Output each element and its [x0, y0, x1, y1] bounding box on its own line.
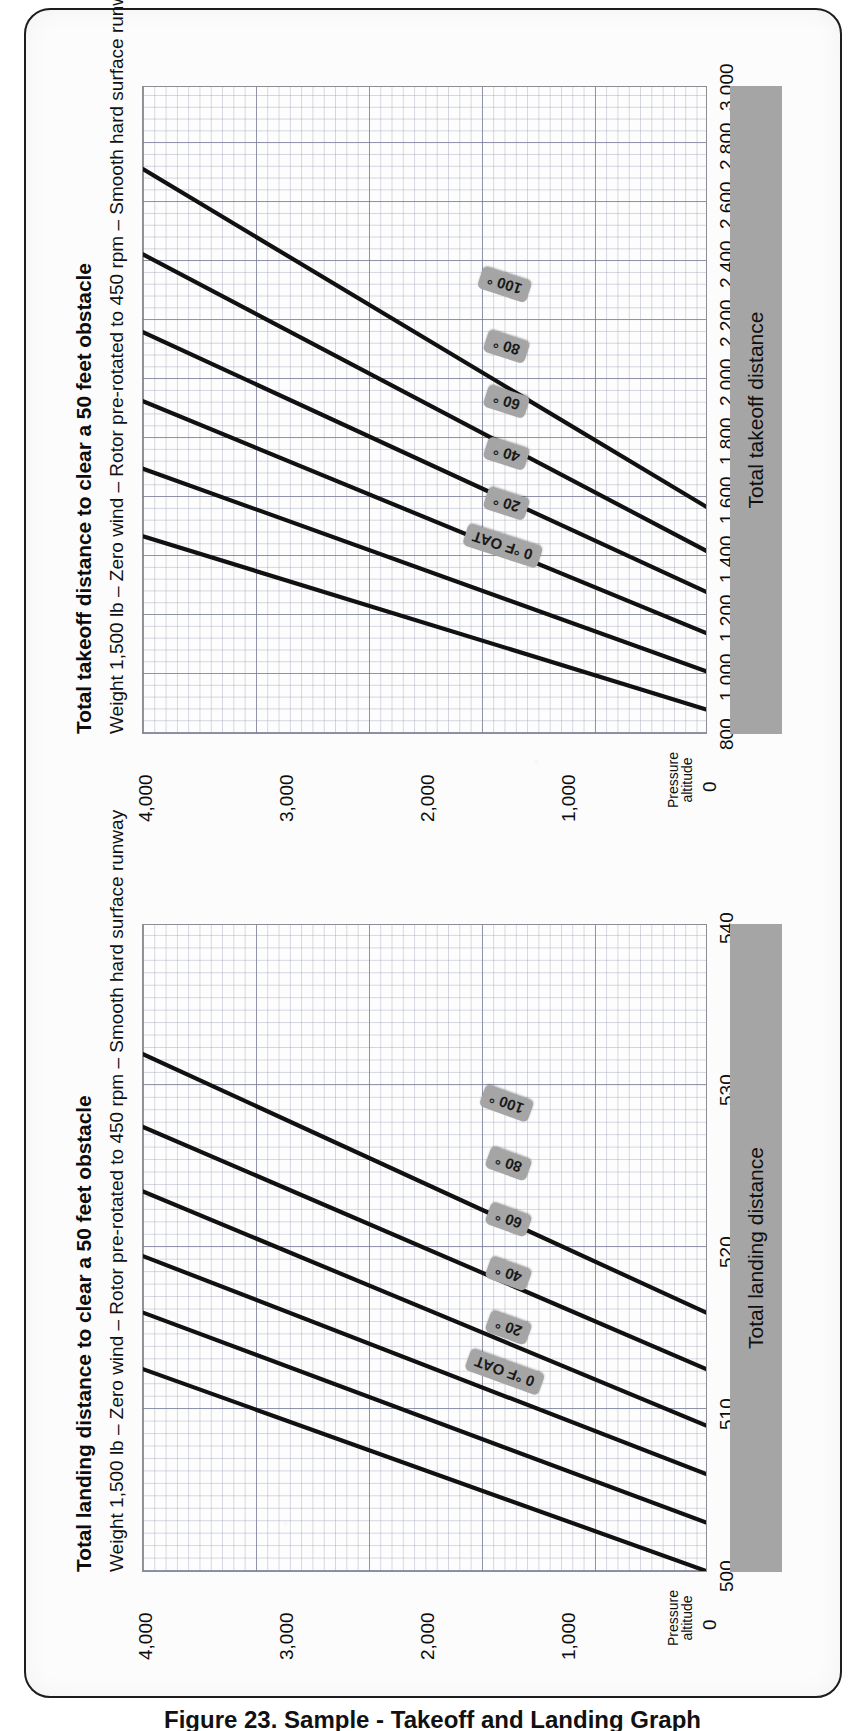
landing-curves	[143, 925, 706, 1571]
landing-y-axis-title: Pressure altitude	[666, 1590, 695, 1646]
takeoff-chart-subtitle: Weight 1,500 lb – Zero wind – Rotor pre-…	[106, 0, 128, 734]
takeoff-plot-area: 0 °F OAT 20 ° 40 ° 60 ° 80 ° 100 °	[142, 86, 707, 734]
landing-ytick-0: 0	[699, 1619, 721, 1630]
takeoff-axis-bar: Total takeoff distance	[730, 86, 782, 734]
takeoff-ytick-0: 0	[699, 781, 721, 792]
landing-axis-bar-label: Total landing distance	[744, 1147, 768, 1349]
takeoff-y-axis-title-line2: altitude	[680, 752, 694, 808]
takeoff-y-axis-title-line1: Pressure	[666, 752, 680, 808]
takeoff-y-axis-title: Pressure altitude	[666, 752, 695, 808]
landing-ytick-4: 4,000	[135, 1612, 157, 1660]
landing-panel: Total landing distance to clear a 50 fee…	[58, 880, 818, 1700]
takeoff-ytick-4: 4,000	[135, 774, 157, 822]
landing-chart-title: Total landing distance to clear a 50 fee…	[72, 1095, 96, 1572]
landing-ytick-1: 1,000	[558, 1612, 580, 1660]
takeoff-chart-title: Total takeoff distance to clear a 50 fee…	[72, 263, 96, 734]
takeoff-curves	[143, 87, 706, 733]
landing-axis-bar: Total landing distance	[730, 924, 782, 1572]
takeoff-ytick-2: 2,000	[417, 774, 439, 822]
takeoff-ytick-1: 1,000	[558, 774, 580, 822]
landing-chart-subtitle: Weight 1,500 lb – Zero wind – Rotor pre-…	[106, 810, 128, 1572]
figure-page: Total takeoff distance to clear a 50 fee…	[0, 0, 865, 1731]
landing-plot-area: 0 °F OAT 20 ° 40 ° 60 ° 80 ° 100 °	[142, 924, 707, 1572]
landing-ytick-2: 2,000	[417, 1612, 439, 1660]
figure-caption: Figure 23. Sample - Takeoff and Landing …	[0, 1706, 865, 1731]
takeoff-panel: Total takeoff distance to clear a 50 fee…	[58, 42, 818, 862]
landing-ytick-3: 3,000	[276, 1612, 298, 1660]
takeoff-ytick-3: 3,000	[276, 774, 298, 822]
takeoff-axis-bar-label: Total takeoff distance	[744, 312, 768, 509]
landing-y-axis-title-line2: altitude	[680, 1590, 694, 1646]
landing-y-axis-title-line1: Pressure	[666, 1590, 680, 1646]
